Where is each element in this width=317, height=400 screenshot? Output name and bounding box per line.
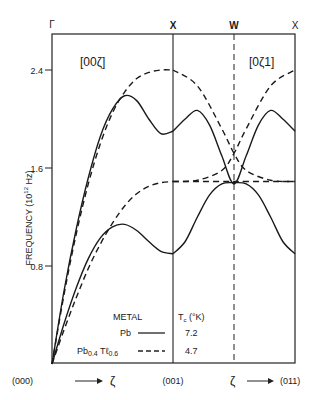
x-label-000: (000) [12, 376, 33, 386]
arrow-1-head [97, 378, 103, 384]
panel-label-0z1: [0ζ1] [249, 55, 274, 69]
w-point-label: W [229, 20, 239, 31]
pb-dispersion-curve [52, 95, 173, 364]
legend-header-metal: METAL [113, 312, 142, 322]
x-label-011: (011) [280, 376, 300, 386]
y-axis-label-unit: Hz) [24, 170, 34, 187]
panel-label-00z: [00ζ] [80, 55, 105, 69]
y-tick-label: 2.4 [30, 66, 43, 76]
x-label-zeta-2: ζ [230, 374, 236, 388]
x-label-zeta-1: ζ [110, 374, 116, 388]
legend-entry-pbtl-name: Pb0.4 Tℓ0.6 [77, 346, 118, 357]
pb-dispersion-curve [52, 224, 173, 364]
y-axis-label: FREQUENCY (1012 Hz) [23, 170, 34, 265]
gamma-point-label: Γ [49, 19, 55, 30]
legend: METAL Tc (°K) Pb 7.2 Pb0.4 Tℓ0.6 4.7 [77, 312, 205, 357]
legend-entry-pb-tc: 7.2 [185, 328, 198, 338]
alloy-dispersion-curve [52, 181, 173, 364]
y-axis-label-text: FREQUENCY (10 [24, 194, 34, 266]
x-point-label: X [170, 20, 177, 31]
x-label-001: (001) [162, 376, 183, 386]
legend-header-tc: Tc (°K) [178, 312, 205, 323]
x-prime-point-label: X [292, 20, 299, 31]
legend-entry-pb-name: Pb [120, 328, 131, 338]
arrow-2-head [268, 378, 274, 384]
phonon-dispersion-chart: 0.81.62.4 Γ X W X [00ζ] [0ζ1] FREQUENCY … [0, 0, 317, 400]
legend-entry-pbtl-tc: 4.7 [185, 346, 198, 356]
